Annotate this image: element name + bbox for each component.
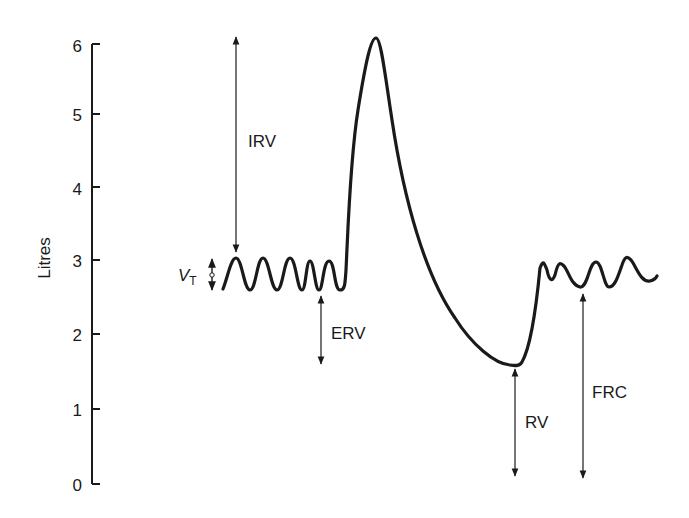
- irv-annotation: IRV: [236, 37, 277, 252]
- y-tick-0: 0: [73, 476, 82, 495]
- frc-label: FRC: [592, 383, 627, 402]
- y-tick-5: 5: [73, 106, 82, 125]
- vt-label: VT: [178, 266, 197, 288]
- erv-annotation: ERV: [321, 296, 366, 364]
- rv-label: RV: [525, 413, 549, 432]
- y-axis: 6 5 4 3 2 1 0 Litres: [35, 37, 100, 495]
- y-tick-4: 4: [73, 180, 82, 199]
- y-tick-6: 6: [73, 37, 82, 56]
- spirogram-figure: 6 5 4 3 2 1 0 Litres IRV VT ERV RV FRC: [0, 0, 689, 518]
- erv-label: ERV: [331, 324, 366, 343]
- irv-label: IRV: [248, 132, 277, 151]
- volume-trace: [223, 38, 657, 366]
- y-tick-3: 3: [73, 252, 82, 271]
- frc-annotation: FRC: [583, 294, 627, 478]
- y-axis-title: Litres: [35, 237, 54, 279]
- y-tick-2: 2: [73, 326, 82, 345]
- rv-annotation: RV: [515, 369, 549, 476]
- vt-annotation: VT: [178, 259, 214, 290]
- spirogram-svg: 6 5 4 3 2 1 0 Litres IRV VT ERV RV FRC: [0, 0, 689, 518]
- y-tick-1: 1: [73, 401, 82, 420]
